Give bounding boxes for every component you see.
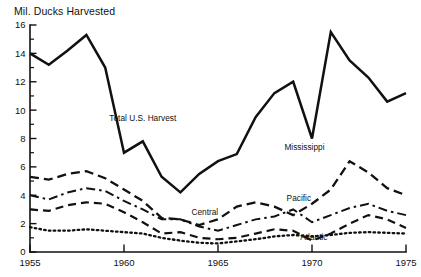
x-tick-label-1955: 1955 (19, 257, 40, 268)
series-label-total-u-s-harvest: Total U.S. Harvest (109, 113, 177, 123)
x-tick-label-1975: 1975 (395, 257, 416, 268)
series-label-mississippi: Mississippi (284, 142, 324, 152)
y-axis-major-ticks (30, 25, 37, 252)
series-line-total-u-s-harvest (30, 32, 406, 192)
y-tick-label-6: 6 (20, 161, 25, 172)
chart-container: Mil. Ducks Harvested 0246810121416 19551… (0, 0, 421, 277)
series-label-atlantic: Atlantic (300, 232, 327, 242)
x-tick-label-1965: 1965 (207, 257, 228, 268)
series-line-atlantic (30, 227, 406, 243)
y-tick-label-4: 4 (20, 190, 25, 201)
y-tick-label-2: 2 (20, 218, 25, 229)
line-chart-plot: 0246810121416 19551960196519701975 Total… (0, 0, 421, 277)
x-axis-tick-labels: 19551960196519701975 (19, 257, 416, 268)
x-axis-ticks (30, 245, 406, 253)
y-tick-label-16: 16 (15, 19, 26, 30)
y-tick-label-14: 14 (15, 48, 26, 59)
series-label-pacific: Pacific (287, 193, 311, 203)
y-tick-label-8: 8 (20, 133, 25, 144)
x-tick-label-1960: 1960 (113, 257, 134, 268)
x-tick-label-1970: 1970 (301, 257, 322, 268)
y-tick-label-12: 12 (15, 76, 26, 87)
y-tick-label-10: 10 (15, 105, 26, 116)
series-label-central: Central (191, 207, 218, 217)
y-tick-label-0: 0 (20, 246, 25, 257)
y-axis-tick-labels: 0246810121416 (15, 19, 26, 257)
